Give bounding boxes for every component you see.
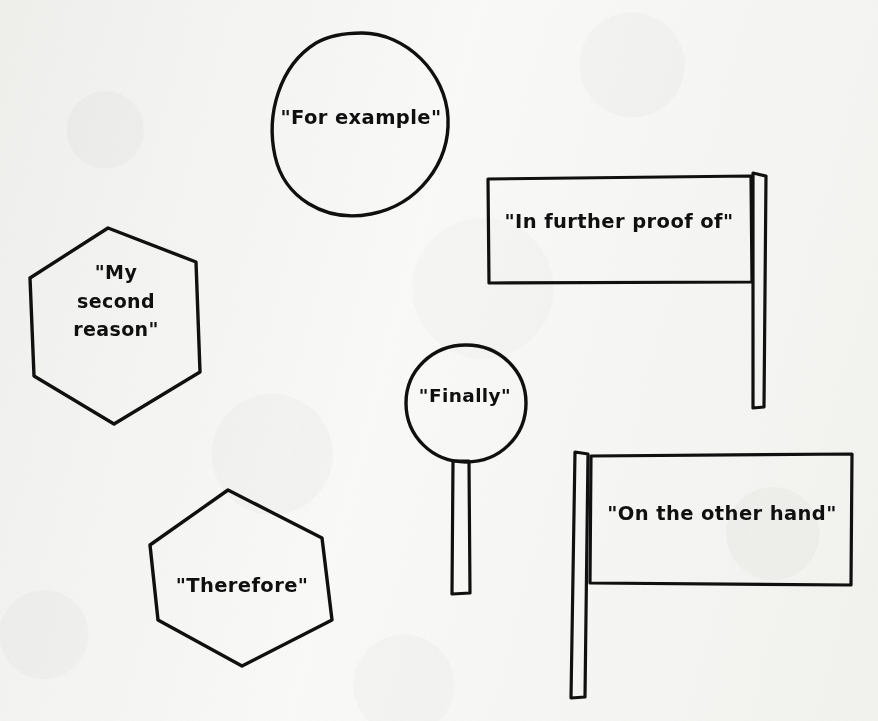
flag-banner-on-the-other-hand[interactable]	[590, 454, 852, 585]
circle-shape-for-example[interactable]	[272, 33, 448, 216]
ink-drawing-layer	[0, 0, 878, 721]
flag-pole-on-the-other-hand	[571, 452, 588, 698]
diagram-canvas: "For example" "My second reason" "In fur…	[0, 0, 878, 721]
hexagon-shape-therefore[interactable]	[150, 490, 332, 666]
flag-pole-in-further-proof	[753, 173, 766, 408]
lollipop-post-finally	[452, 461, 470, 594]
flag-banner-in-further-proof[interactable]	[488, 176, 752, 283]
hexagon-shape-my-second-reason[interactable]	[30, 228, 200, 424]
lollipop-circle-finally[interactable]	[406, 345, 526, 462]
